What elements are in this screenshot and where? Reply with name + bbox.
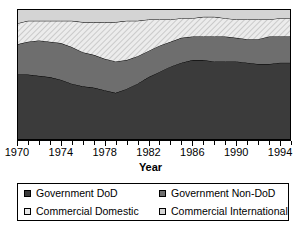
x-axis-tick xyxy=(138,141,139,145)
x-axis-tick-label: 1986 xyxy=(172,146,212,159)
x-axis-title: Year xyxy=(0,161,301,174)
x-axis-tick-labels: 1970197419781982198619901994 xyxy=(0,146,301,160)
x-axis-tick xyxy=(247,141,248,145)
x-axis-tick xyxy=(127,141,128,145)
legend-swatch-icon xyxy=(159,190,166,197)
chart-legend: Government DoD Government Non-DoD Commer… xyxy=(17,183,289,221)
x-axis-tick xyxy=(203,141,204,145)
x-axis-tick xyxy=(72,141,73,145)
x-axis-tick xyxy=(214,141,215,145)
legend-item-commercial-international[interactable]: Commercial International xyxy=(153,203,288,220)
x-axis-tick xyxy=(50,141,51,145)
legend-swatch-icon xyxy=(159,208,166,215)
x-axis-tick-label: 1970 xyxy=(0,146,37,159)
stacked-area-chart xyxy=(17,9,291,140)
x-axis-tick xyxy=(83,141,84,145)
x-axis-tick-label: 1978 xyxy=(85,146,125,159)
x-axis-tick xyxy=(181,141,182,145)
x-axis-tick xyxy=(116,141,117,145)
legend-label: Government Non-DoD xyxy=(171,187,275,199)
x-axis-tick xyxy=(28,141,29,145)
plot-area xyxy=(17,9,291,140)
legend-label: Commercial International xyxy=(171,205,288,217)
x-axis-tick-label: 1974 xyxy=(41,146,81,159)
x-axis-tick-label: 1990 xyxy=(216,146,256,159)
legend-swatch-icon xyxy=(24,208,31,215)
x-axis-line xyxy=(17,140,291,141)
x-axis-tick xyxy=(39,141,40,145)
x-axis-tick xyxy=(94,141,95,145)
x-axis-tick xyxy=(291,141,292,145)
x-axis-tick xyxy=(159,141,160,145)
legend-item-government-non-dod[interactable]: Government Non-DoD xyxy=(153,185,288,202)
legend-label: Government DoD xyxy=(36,187,118,199)
x-axis-tick xyxy=(269,141,270,145)
x-axis-tick xyxy=(258,141,259,145)
x-axis-tick-label: 1994 xyxy=(260,146,300,159)
legend-item-government-dod[interactable]: Government DoD xyxy=(18,185,153,202)
x-axis-tick xyxy=(170,141,171,145)
legend-label: Commercial Domestic xyxy=(36,205,139,217)
chart-figure: 1970197419781982198619901994 Year Govern… xyxy=(0,0,301,229)
area-series-group xyxy=(17,9,291,140)
x-axis-tick xyxy=(225,141,226,145)
legend-swatch-icon xyxy=(24,190,31,197)
x-axis-tick-label: 1982 xyxy=(129,146,169,159)
legend-item-commercial-domestic[interactable]: Commercial Domestic xyxy=(18,203,153,220)
